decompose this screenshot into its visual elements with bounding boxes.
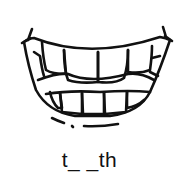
- mouth-teeth-illustration: [0, 0, 179, 130]
- chin-mark-right: [84, 124, 118, 126]
- lower-tooth-3: [82, 93, 104, 114]
- lower-tooth-4: [104, 92, 127, 114]
- chin-mark-dot: [72, 126, 73, 127]
- upper-right-tooth: [128, 46, 152, 73]
- fill-in-word-prompt: t_ _th: [0, 148, 179, 172]
- lower-gum-line: [46, 91, 150, 94]
- lower-tooth-2: [60, 93, 82, 114]
- chin-mark-left: [52, 118, 64, 123]
- lower-tooth-5: [127, 92, 144, 108]
